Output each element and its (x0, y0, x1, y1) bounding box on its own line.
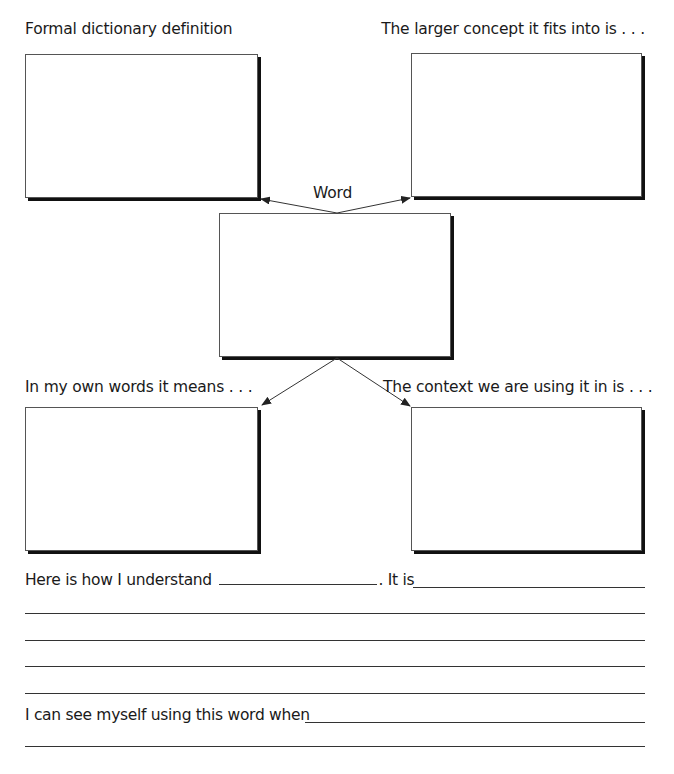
writing-line-1[interactable] (25, 613, 645, 614)
usage-blank[interactable] (305, 722, 645, 723)
arrow-to-definition-icon (261, 199, 337, 213)
understand-middle: . It is (379, 571, 415, 589)
context-box[interactable] (411, 407, 642, 551)
own-words-label: In my own words it means . . . (25, 378, 252, 396)
usage-prefix: I can see myself using this word when (25, 706, 310, 724)
writing-line-5[interactable] (25, 746, 645, 747)
writing-line-4[interactable] (25, 693, 645, 694)
word-blank[interactable] (219, 583, 377, 585)
usage-sentence: I can see myself using this word when (25, 706, 310, 724)
understand-prefix: Here is how I understand (25, 571, 212, 589)
writing-line-2[interactable] (25, 640, 645, 641)
own-words-box[interactable] (25, 407, 258, 551)
context-label: The context we are using it in is . . . (383, 378, 653, 396)
understand-sentence: Here is how I understand . It is (25, 571, 414, 589)
writing-line-3[interactable] (25, 666, 645, 667)
arrow-to-own-words-icon (262, 358, 337, 405)
arrow-to-concept-icon (337, 198, 410, 213)
it-is-blank[interactable] (413, 587, 645, 588)
